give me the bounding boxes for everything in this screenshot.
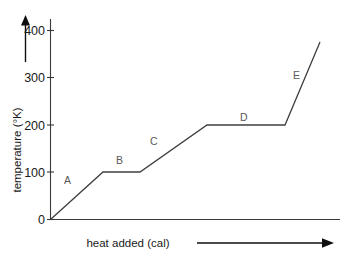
y-tick-label-100: 100 — [24, 166, 45, 180]
y-tick-label-0: 0 — [38, 213, 45, 227]
x-arrow-head — [322, 238, 334, 248]
x-axis-title: heat added (cal) — [86, 237, 169, 249]
y-tick-label-400: 400 — [24, 24, 45, 38]
y-tick-label-200: 200 — [24, 119, 45, 133]
y-axis-title: temperature (°K) — [11, 107, 23, 192]
segment-label-c: C — [150, 135, 158, 147]
segment-label-e: E — [293, 69, 300, 81]
y-axis-direction-arrow — [21, 15, 30, 62]
segment-label-a: A — [64, 174, 71, 186]
heating-curve-line — [51, 42, 321, 220]
segment-label-b: B — [116, 154, 123, 166]
segment-label-d: D — [240, 111, 248, 123]
y-tick-label-300: 300 — [24, 71, 45, 85]
heating-curve-figure: temperature (°K) 400 300 200 100 0 A B C… — [0, 0, 346, 263]
x-axis-direction-arrow — [197, 238, 334, 248]
chart-canvas: temperature (°K) 400 300 200 100 0 A B C… — [0, 0, 346, 263]
